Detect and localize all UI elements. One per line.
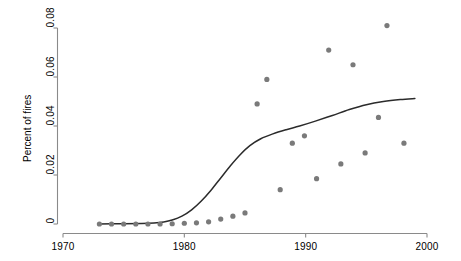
data-point xyxy=(157,221,162,226)
x-tick-label: 1970 xyxy=(38,241,88,252)
chart-plot-area xyxy=(0,0,461,261)
data-point xyxy=(384,23,389,28)
data-point xyxy=(218,217,223,222)
data-point xyxy=(133,221,138,226)
data-point xyxy=(145,221,150,226)
y-axis-title: Percent of fires xyxy=(22,95,33,162)
data-point xyxy=(302,133,307,138)
scatter-points xyxy=(97,23,407,227)
data-point xyxy=(278,187,283,192)
data-point xyxy=(326,47,331,52)
data-point xyxy=(290,141,295,146)
data-point xyxy=(182,221,187,226)
data-point xyxy=(350,62,355,67)
axis-lines xyxy=(58,28,428,234)
data-point xyxy=(121,221,126,226)
data-point xyxy=(338,161,343,166)
data-point xyxy=(314,176,319,181)
tick-marks xyxy=(54,28,428,238)
data-point xyxy=(255,101,260,106)
data-point xyxy=(363,150,368,155)
x-tick-label: 2000 xyxy=(402,241,452,252)
data-point xyxy=(264,77,269,82)
data-point xyxy=(401,141,406,146)
data-point xyxy=(97,221,102,226)
data-point xyxy=(109,221,114,226)
data-point xyxy=(242,210,247,215)
data-point xyxy=(206,219,211,224)
chart-container: Percent of fires 00.020.040.060.08197019… xyxy=(0,0,461,261)
x-tick-label: 1990 xyxy=(281,241,331,252)
x-tick-label: 1980 xyxy=(159,241,209,252)
trend-line xyxy=(99,99,414,224)
data-point xyxy=(170,221,175,226)
data-point xyxy=(230,214,235,219)
data-point xyxy=(194,220,199,225)
data-point xyxy=(376,115,381,120)
smoothed-trend-curve xyxy=(99,99,414,224)
